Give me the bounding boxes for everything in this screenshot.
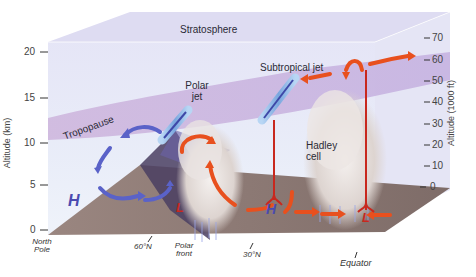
hadley-label-line2: cell: [306, 151, 337, 162]
low-pressure-equator-marker: L: [362, 212, 370, 223]
left-tick-20: 20: [24, 47, 35, 57]
left-tick-15: 15: [24, 93, 35, 103]
low-pressure-polar-front-marker: L: [176, 202, 184, 213]
polar-jet-label-line1: Polar: [183, 80, 211, 91]
high-pressure-pole-marker: H: [68, 195, 80, 206]
polar-front-label-line2: front: [170, 250, 198, 258]
high-pressure-30n-marker: H: [266, 204, 276, 215]
polar-jet-label-line2: jet: [183, 91, 211, 102]
polar-front-label: Polar front: [170, 242, 198, 258]
right-tick-70: 70: [432, 33, 443, 43]
north-pole-label: North Pole: [28, 238, 56, 254]
left-axis-title: Altitude (km): [2, 118, 12, 169]
lat-30n-label: 30°N: [243, 251, 261, 259]
left-tick-10: 10: [24, 138, 35, 148]
left-tick-5: 5: [30, 180, 36, 190]
hadley-cell-label: Hadley cell: [306, 140, 337, 162]
hadley-label-line1: Hadley: [306, 140, 337, 151]
polar-jet-label: Polar jet: [183, 80, 211, 102]
right-tick-40: 40: [432, 97, 443, 107]
right-tick-30: 30: [432, 119, 443, 129]
subtropical-jet-label: Subtropical jet: [260, 62, 323, 73]
left-tick-0: 0: [30, 225, 36, 235]
right-tick-0: 0: [430, 182, 436, 192]
north-pole-label-line2: Pole: [28, 246, 56, 254]
left-axis-ticks: [40, 52, 48, 230]
right-tick-60: 60: [432, 55, 443, 65]
right-tick-20: 20: [432, 140, 443, 150]
right-tick-50: 50: [432, 76, 443, 86]
equator-label: Equator: [340, 259, 372, 267]
right-tick-10: 10: [432, 161, 443, 171]
stratosphere-label: Stratosphere: [180, 24, 237, 35]
right-axis-title: Altitude (1000 ft): [446, 80, 456, 146]
diagram-canvas: Stratosphere Tropopause Polar jet Subtro…: [0, 0, 476, 277]
lat-60n-label: 60°N: [134, 243, 152, 251]
